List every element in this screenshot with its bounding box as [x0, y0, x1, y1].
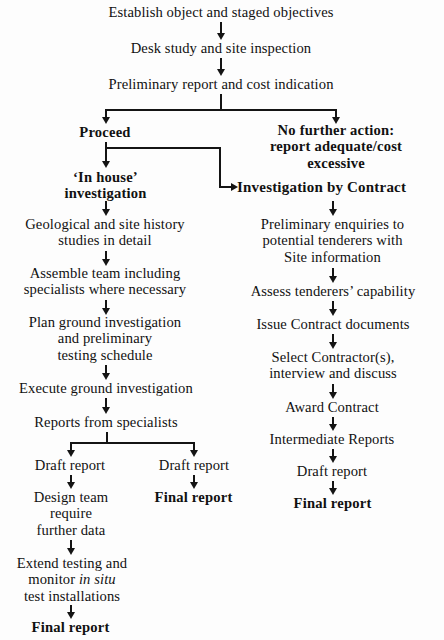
arrowhead-proceed-to-in-house: [102, 161, 110, 168]
node-draft-report-right: Draft report: [282, 463, 382, 479]
node-reports-from-specialists: Reports from specialists: [14, 414, 198, 430]
node-in-house-investigation: ‘In house’ investigation: [33, 169, 178, 202]
node-proceed: Proceed: [45, 124, 165, 140]
node-preliminary-report: Preliminary report and cost indication: [56, 76, 386, 92]
node-intermediate-reports: Intermediate Reports: [251, 431, 413, 447]
node-award-contract: Award Contract: [262, 399, 402, 415]
node-investigation-by-contract: Investigation by Contract: [237, 179, 444, 196]
connector-preliminary-stem: [220, 94, 222, 110]
arrowhead-issue-to-select: [329, 342, 337, 349]
node-select-contractors: Select Contractor(s), interview and disc…: [247, 349, 419, 382]
arrowhead-award-to-intermediate: [329, 424, 337, 431]
arrowhead-extend-to-final-report: [67, 612, 75, 619]
node-geological-studies: Geological and site history studies in d…: [9, 216, 201, 249]
node-assemble-team: Assemble team including specialists wher…: [9, 265, 201, 298]
arrowhead-middle-draft-to-final: [190, 482, 198, 489]
arrowhead-split-left: [102, 117, 110, 124]
connector-elbow-horizontal: [105, 147, 221, 149]
arrowhead-draft-fork-left: [67, 450, 75, 457]
arrowhead-contract-to-preliminary-enquiries: [329, 209, 337, 216]
connector-proceed-stem: [105, 142, 107, 163]
connector-split-bar: [105, 109, 337, 111]
node-draft-report-middle: Draft report: [144, 457, 244, 473]
connector-elbow-vertical: [219, 147, 221, 187]
arrowhead-plan-to-execute: [102, 373, 110, 380]
arrowhead-left-draft-to-design-team: [67, 482, 75, 489]
arrowhead-establish-to-desk: [217, 33, 225, 40]
arrowhead-design-team-to-extend: [67, 548, 75, 555]
arrowhead-select-to-award: [329, 392, 337, 399]
node-execute-ground-investigation: Execute ground investigation: [4, 380, 208, 396]
node-establish-objectives: Establish object and staged objectives: [61, 4, 381, 20]
arrowhead-draft-fork-right: [190, 450, 198, 457]
extend-testing-line3: test installations: [24, 588, 120, 604]
node-issue-contract-documents: Issue Contract documents: [240, 316, 426, 332]
node-preliminary-enquiries: Preliminary enquiries to potential tende…: [240, 216, 425, 265]
connector-draft-fork-bar: [70, 442, 195, 444]
arrowhead-enquiries-to-assess: [329, 276, 337, 283]
arrowhead-assess-to-issue: [329, 309, 337, 316]
arrowhead-in-house-to-geological: [102, 209, 110, 216]
node-plan-ground-investigation: Plan ground investigation and preliminar…: [9, 314, 201, 363]
node-no-further-action: No further action: report adequate/cost …: [245, 122, 427, 171]
arrowhead-intermediate-to-draft: [329, 456, 337, 463]
node-draft-report-left: Draft report: [20, 457, 120, 473]
node-final-report-left: Final report: [18, 619, 123, 635]
node-final-report-middle: Final report: [141, 489, 246, 505]
flowchart-canvas: Establish object and staged objectives D…: [0, 0, 444, 640]
node-desk-study: Desk study and site inspection: [71, 40, 371, 56]
arrowhead-execute-to-reports: [102, 407, 110, 414]
arrowhead-right-draft-to-final: [329, 488, 337, 495]
node-assess-tenderers: Assess tenderers’ capability: [238, 283, 428, 299]
node-final-report-right: Final report: [280, 495, 385, 511]
arrowhead-desk-to-preliminary: [217, 69, 225, 76]
node-design-team-require-data: Design team require further data: [15, 489, 127, 538]
node-extend-testing-monitor: Extend testing and monitor in situ test …: [6, 555, 138, 604]
extend-testing-italic-term: in situ: [79, 571, 116, 587]
